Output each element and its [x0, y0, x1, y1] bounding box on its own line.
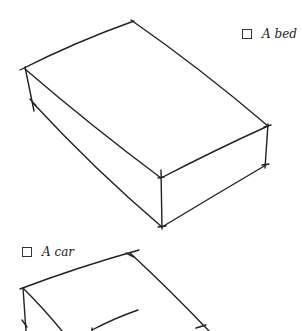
bed-checkbox[interactable]: [242, 29, 252, 39]
bed-label: A bed: [262, 27, 297, 41]
car-checkbox[interactable]: [22, 247, 32, 257]
car-sketch: [0, 0, 302, 331]
option-bed[interactable]: A bed: [242, 27, 297, 41]
option-car[interactable]: A car: [22, 245, 74, 259]
car-label: A car: [42, 245, 74, 259]
